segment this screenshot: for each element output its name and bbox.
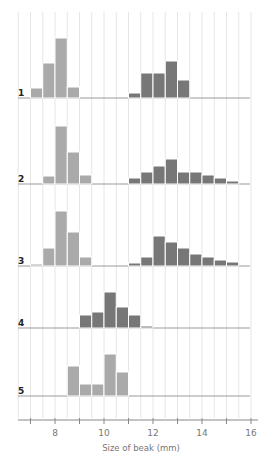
light-histogram-bar (80, 384, 92, 396)
dark-histogram-bar (141, 73, 153, 98)
x-axis-title: Size of beak (mm) (102, 443, 180, 453)
dark-histogram-bar (165, 159, 177, 184)
panel-5: 5 (18, 354, 250, 396)
dark-histogram-bar (178, 80, 190, 98)
x-tick-label: 10 (98, 428, 110, 438)
dark-histogram-bar (214, 260, 226, 266)
light-histogram-bar (55, 38, 67, 98)
dark-histogram-bar (129, 315, 141, 328)
dark-histogram-bar (178, 248, 190, 266)
light-histogram-bar (43, 176, 55, 184)
histogram-panels: 12345 (18, 38, 250, 396)
dark-histogram-bar (92, 312, 104, 328)
light-histogram-bar (31, 264, 43, 266)
panel-label: 3 (18, 256, 24, 266)
beak-size-histogram-chart: 12345 810121416 Size of beak (mm) (0, 0, 276, 463)
dark-histogram-bar (153, 73, 165, 98)
dark-histogram-bar (129, 178, 141, 184)
dark-histogram-bar (104, 292, 116, 328)
x-tick-label: 14 (196, 428, 208, 438)
dark-histogram-bar (214, 178, 226, 184)
x-axis: 810121416 (18, 418, 258, 438)
dark-histogram-bar (165, 61, 177, 98)
dark-histogram-bar (141, 326, 153, 328)
light-histogram-bar (31, 88, 43, 98)
light-histogram-bar (80, 175, 92, 184)
dark-histogram-bar (153, 236, 165, 266)
panel-label: 5 (18, 386, 24, 396)
dark-histogram-bar (129, 93, 141, 98)
x-tick-label: 16 (245, 428, 257, 438)
dark-histogram-bar (227, 181, 239, 184)
dark-histogram-bar (153, 166, 165, 184)
panel-1: 1 (18, 38, 250, 98)
dark-histogram-bar (129, 263, 141, 266)
light-histogram-bar (43, 248, 55, 266)
dark-histogram-bar (80, 315, 92, 328)
x-tick-label: 8 (52, 428, 58, 438)
dark-histogram-bar (202, 175, 214, 184)
panel-4: 4 (18, 292, 250, 328)
dark-histogram-bar (141, 257, 153, 266)
light-histogram-bar (43, 63, 55, 98)
dark-histogram-bar (190, 254, 202, 266)
dark-histogram-bar (190, 172, 202, 184)
panel-label: 4 (18, 318, 24, 328)
light-histogram-bar (67, 152, 79, 184)
dark-histogram-bar (165, 242, 177, 266)
light-histogram-bar (104, 354, 116, 396)
panel-label: 1 (18, 88, 24, 98)
panel-label: 2 (18, 174, 24, 184)
light-histogram-bar (116, 372, 128, 396)
dark-histogram-bar (116, 307, 128, 328)
dark-histogram-bar (178, 172, 190, 184)
panel-2: 2 (18, 126, 250, 184)
light-histogram-bar (55, 126, 67, 184)
light-histogram-bar (55, 211, 67, 266)
light-histogram-bar (80, 257, 92, 266)
dark-histogram-bar (227, 262, 239, 266)
light-histogram-bar (67, 232, 79, 266)
light-histogram-bar (92, 384, 104, 396)
light-histogram-bar (67, 87, 79, 98)
x-tick-label: 12 (147, 428, 158, 438)
panel-3: 3 (18, 211, 250, 266)
light-histogram-bar (67, 366, 79, 396)
dark-histogram-bar (141, 172, 153, 184)
dark-histogram-bar (202, 257, 214, 266)
